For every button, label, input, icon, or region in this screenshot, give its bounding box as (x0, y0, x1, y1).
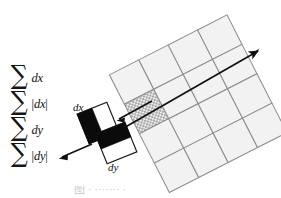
term-variable: dy (34, 149, 45, 163)
dy-filter-label: dy (108, 161, 118, 173)
summation-row-sum-abs-dy: ∑ |dy| (10, 140, 80, 166)
sigma-icon: ∑ (11, 117, 28, 138)
clipped-caption: 图 · ······· · (0, 186, 281, 198)
term-suffix: | (45, 149, 47, 163)
summation-term: |dy| (32, 150, 48, 163)
term-variable: dx (34, 97, 45, 111)
term-variable: dy (32, 123, 43, 137)
surf-descriptor-figure: ∑ dx ∑ |dx| ∑ dy ∑ |dy| dx dy 图 · ······… (0, 0, 281, 198)
summation-row-sum-dx: ∑ dx (10, 62, 80, 88)
sigma-icon: ∑ (11, 143, 28, 164)
summation-list: ∑ dx ∑ |dx| ∑ dy ∑ |dy| (10, 62, 80, 166)
descriptor-grid (109, 15, 281, 193)
summation-row-sum-abs-dx: ∑ |dx| (10, 88, 80, 114)
summation-term: |dx| (32, 98, 48, 111)
term-variable: dx (32, 71, 43, 85)
sigma-icon: ∑ (11, 91, 28, 112)
term-suffix: | (45, 97, 47, 111)
grid-cells (109, 15, 281, 193)
summation-term: dx (32, 72, 43, 85)
summation-row-sum-dy: ∑ dy (10, 114, 80, 140)
sigma-icon: ∑ (11, 65, 28, 86)
summation-term: dy (32, 124, 43, 137)
caption-text: 图 · ······· · (74, 186, 126, 196)
dx-filter-label: dx (73, 101, 83, 113)
